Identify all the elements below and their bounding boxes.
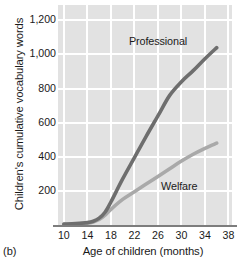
series-line-professional <box>64 48 217 225</box>
x-axis-line <box>53 225 237 227</box>
series-label-professional: Professional <box>129 35 187 47</box>
panel-caption: (b) <box>3 245 16 257</box>
y-tick-label: 600 <box>2 117 56 128</box>
y-tick-label: 1,200 <box>2 14 56 25</box>
y-tick-label: 400 <box>2 151 56 162</box>
y-tick-label: 1,000 <box>2 48 56 59</box>
figure-panel-b: Children's cumulative vocabulary words 2… <box>0 0 247 263</box>
y-tick-label: 800 <box>2 83 56 94</box>
y-tick-label: 200 <box>2 185 56 196</box>
x-axis-title: Age of children (months) <box>48 245 238 257</box>
x-tick-label: 38 <box>213 229 243 242</box>
series-label-welfare: Welfare <box>161 180 197 192</box>
y-axis-tick-labels: 2004006008001,0001,200 <box>0 0 56 263</box>
x-axis-tick-labels: 1014182226303438 <box>0 229 247 245</box>
